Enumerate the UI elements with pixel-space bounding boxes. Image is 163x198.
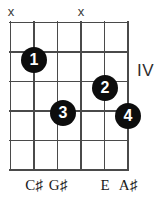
- finger-dot-1: 1: [21, 47, 47, 73]
- note-label-string-2: C♯: [22, 178, 46, 193]
- fret-position-label: IV: [137, 62, 154, 79]
- fretboard-grid: [0, 0, 163, 198]
- finger-dot-3: 3: [50, 100, 76, 126]
- note-label-string-6: A♯: [116, 178, 140, 193]
- guitar-chord-diagram: x x 1 2 3 4 IV C♯ G♯ E A♯: [0, 0, 163, 198]
- note-label-string-5: E: [94, 178, 116, 193]
- note-label-string-3: G♯: [46, 178, 70, 193]
- finger-dot-4: 4: [115, 103, 141, 129]
- finger-dot-2: 2: [92, 75, 118, 101]
